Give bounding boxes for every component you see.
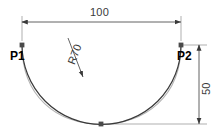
node-points [20, 43, 184, 127]
point-bottom-marker [99, 122, 104, 127]
technical-drawing-canvas: 100 50 R70 P1 P2 [0, 0, 220, 138]
point-p1-marker [20, 43, 25, 48]
construction-arc [22, 45, 181, 124]
primary-arc [22, 45, 181, 124]
point-label-p1: P1 [10, 50, 25, 62]
dimension-50-label: 50 [201, 82, 212, 95]
dimension-100-label: 100 [90, 7, 109, 18]
point-p2-marker [179, 43, 184, 48]
point-label-p2: P2 [177, 50, 192, 62]
drawing-vector-layer [0, 0, 220, 138]
